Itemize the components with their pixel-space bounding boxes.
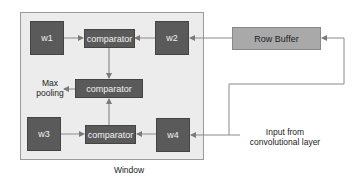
block-w4-label: w4: [167, 130, 179, 140]
block-w4: w4: [156, 118, 190, 152]
comparator-bottom: comparator: [85, 125, 136, 144]
input-line1: Input from: [230, 127, 340, 137]
window-caption: Window: [104, 165, 154, 175]
block-w3-label: w3: [38, 129, 50, 139]
input-line2: convolutional layer: [230, 137, 340, 147]
row-buffer-label: Row Buffer: [254, 34, 298, 44]
max-pooling-line1: Max: [34, 78, 66, 88]
max-pooling-label: Max pooling: [34, 78, 66, 98]
max-pooling-line2: pooling: [34, 88, 66, 98]
comparator-middle-label: comparator: [86, 84, 132, 94]
block-w2-label: w2: [166, 33, 178, 43]
block-w1-label: w1: [41, 33, 53, 43]
block-w1: w1: [30, 21, 64, 55]
comparator-top-label: comparator: [87, 34, 133, 44]
block-w2: w2: [155, 21, 189, 55]
wire-input-to-row-buffer: [229, 38, 344, 135]
input-from-conv-label: Input from convolutional layer: [230, 127, 340, 147]
row-buffer-block: Row Buffer: [232, 27, 321, 50]
comparator-top: comparator: [84, 29, 135, 48]
comparator-middle: comparator: [75, 79, 143, 98]
block-w3: w3: [27, 117, 61, 151]
comparator-bottom-label: comparator: [88, 130, 134, 140]
